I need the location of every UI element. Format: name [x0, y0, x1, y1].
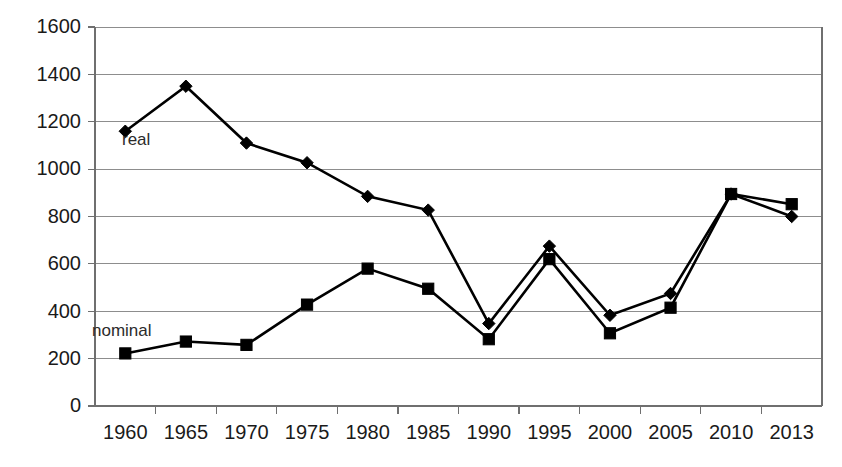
- x-axis-tick-label: 1995: [527, 421, 572, 443]
- y-axis-tick-label: 1200: [37, 110, 82, 132]
- x-axis-tick-label: 1990: [467, 421, 512, 443]
- data-point-marker: [786, 199, 797, 210]
- x-axis-tick-label: 2010: [709, 421, 754, 443]
- y-axis-tick-label: 1000: [37, 157, 82, 179]
- data-point-marker: [726, 188, 737, 199]
- series-annotation-nominal: nominal: [92, 321, 152, 340]
- x-axis-tick-label: 1975: [285, 421, 330, 443]
- x-axis-tick-label: 1985: [406, 421, 451, 443]
- x-axis-tick-label: 1960: [103, 421, 148, 443]
- y-axis-tick-label: 0: [70, 394, 81, 416]
- x-axis-tick-label: 2005: [648, 421, 693, 443]
- data-point-marker: [604, 328, 615, 339]
- y-axis-tick-label: 400: [48, 300, 81, 322]
- y-axis-tick-label: 800: [48, 205, 81, 227]
- data-point-marker: [241, 339, 252, 350]
- x-axis-tick-label: 2013: [769, 421, 814, 443]
- y-axis-tick-label: 600: [48, 252, 81, 274]
- data-point-marker: [544, 254, 555, 265]
- data-point-marker: [483, 334, 494, 345]
- y-tick-marks: [88, 27, 95, 406]
- x-axis-tick-label: 1970: [224, 421, 269, 443]
- line-chart: 16001400120010008006004002000 1960196519…: [0, 0, 842, 467]
- y-axis-tick-label: 1400: [37, 63, 82, 85]
- chart-canvas: 16001400120010008006004002000 1960196519…: [0, 0, 842, 467]
- data-point-marker: [301, 299, 312, 310]
- y-axis-tick-label: 1600: [37, 15, 82, 37]
- data-point-marker: [423, 283, 434, 294]
- x-axis-tick-label: 2000: [588, 421, 633, 443]
- y-axis-tick-labels: 16001400120010008006004002000: [37, 15, 82, 416]
- y-axis-tick-label: 200: [48, 347, 81, 369]
- data-point-marker: [362, 263, 373, 274]
- x-axis-tick-label: 1965: [164, 421, 209, 443]
- data-point-marker: [665, 302, 676, 313]
- x-axis-tick-label: 1980: [345, 421, 390, 443]
- series-annotation-real: real: [122, 130, 150, 149]
- data-point-marker: [180, 336, 191, 347]
- x-tick-marks: [156, 406, 762, 414]
- x-axis-tick-labels: 1960196519701975198019851990199520002005…: [103, 421, 814, 443]
- data-point-marker: [120, 348, 131, 359]
